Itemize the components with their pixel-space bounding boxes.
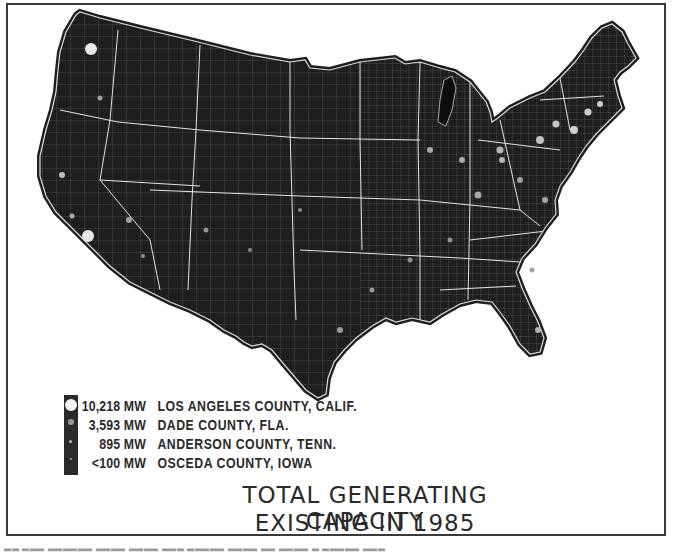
legend-row: 10,218 MW LOS ANGELES COUNTY, CALIF. (64, 396, 357, 414)
legend-place: ANDERSON COUNTY, TENN. (157, 435, 336, 452)
legend-row: 3,593 MW DADE COUNTY, FLA. (64, 415, 289, 433)
legend-row: 895 MW ANDERSON COUNTY, TENN. (64, 434, 336, 452)
legend-place: OSCEDA COUNTY, IOWA (157, 454, 312, 471)
legend-value: <100 MW (64, 454, 146, 471)
legend-place: DADE COUNTY, FLA. (157, 416, 288, 433)
legend-row: <100 MW OSCEDA COUNTY, IOWA (64, 453, 313, 471)
legend-value: 895 MW (64, 435, 146, 452)
legend-value: 3,593 MW (64, 416, 146, 433)
cut-off-caption: ▂▂ ▂▂▂ ▂▂▂▂▂▂ ▂▂▂▂ ▂▂▂▂ ▂▂▂ ▂▂▂▂▂ ▂▂▂▂ ▂… (4, 541, 385, 551)
legend-value: 10,218 MW (64, 397, 146, 414)
plant-circle-washington (85, 43, 97, 55)
figure-title-line2: EXISTING IN 1985 (200, 510, 530, 536)
legend-place: LOS ANGELES COUNTY, CALIF. (157, 397, 357, 414)
plant-circle-los-angeles (82, 230, 94, 242)
